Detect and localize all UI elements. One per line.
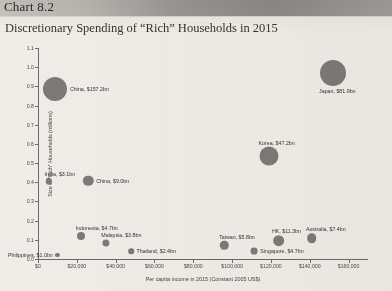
bubble-label-malaysia: Malaysia, $3.8bn (101, 232, 141, 238)
bubble-label-korea: Korea, $47.2bn (259, 140, 295, 146)
x-tick-label: $80,000 (184, 263, 203, 269)
header-divider (0, 16, 392, 17)
bubble-label-philippines: Philippines, $1.0bn (8, 252, 53, 258)
x-tick-label: $60,000 (145, 263, 164, 269)
y-tick-label: 0.3 (27, 198, 34, 204)
y-tick (35, 67, 39, 68)
y-tick (35, 240, 39, 241)
plot-area: Size of “Rich” Households (millions) Per… (38, 48, 368, 259)
bubble-japan[interactable] (320, 60, 346, 86)
bubble-label-taiwan: Taiwan, $5.8bn (219, 234, 255, 240)
x-tick-label: $20,000 (67, 263, 86, 269)
y-axis-line (38, 48, 39, 259)
bubble-label-singapore: Singapore, $4.7bn (260, 248, 303, 254)
x-tick-label: $100,000 (221, 263, 243, 269)
bubble-china[interactable] (43, 77, 67, 101)
x-axis-title: Per capita income in 2015 (Constant 2005… (146, 276, 260, 282)
y-tick (35, 163, 39, 164)
bubble-korea[interactable] (260, 147, 279, 166)
y-tick-label: 0.2 (27, 218, 34, 224)
bubble-label-thailand: Thailand, $2.4bn (136, 248, 175, 254)
y-tick (35, 144, 39, 145)
bubble-label-india: India, $3.1bn (44, 171, 75, 177)
y-tick-label: 0.9 (27, 83, 34, 89)
chart-header-band (0, 0, 392, 16)
y-tick (35, 201, 39, 202)
y-tick (35, 48, 39, 49)
bubble-label-japan: Japan, $81.9bn (319, 88, 356, 94)
y-tick (35, 106, 39, 107)
y-tick-label: 1.0 (27, 64, 34, 70)
x-tick-label: $140,000 (299, 263, 321, 269)
bubble-label-indonesia: Indonesia, $4.7bn (76, 225, 118, 231)
bubble-australia[interactable] (307, 233, 317, 243)
y-tick-label: 0.1 (27, 237, 34, 243)
bubble-thailand[interactable] (128, 249, 134, 255)
y-tick (35, 125, 39, 126)
x-tick-label: $40,000 (106, 263, 125, 269)
x-axis-line (38, 259, 368, 260)
bubble-malaysia[interactable] (102, 239, 109, 246)
bubble-label-hk: HK, $11.3bn (272, 228, 301, 234)
bubble-label-china: China, $157.2bn (70, 86, 109, 92)
chart-number: Chart 8.2 (4, 0, 54, 15)
bubble-taiwan[interactable] (220, 241, 228, 249)
x-tick-label: $160,000 (338, 263, 360, 269)
y-tick-label: 0.7 (27, 122, 34, 128)
chart-title: Discretionary Spending of “Rich” Househo… (5, 21, 278, 36)
bubble-philippines[interactable] (55, 253, 59, 257)
y-tick-label: 1.1 (27, 45, 34, 51)
y-tick (35, 221, 39, 222)
bubble-label-australia: Australia, $7.4bn (306, 226, 346, 232)
x-tick-label: $120,000 (260, 263, 282, 269)
bubble-china2[interactable] (83, 176, 93, 186)
y-tick-label: 0.5 (27, 160, 34, 166)
bubble-singapore[interactable] (251, 248, 258, 255)
bubble-indonesia[interactable] (77, 232, 85, 240)
y-tick-label: 0.4 (27, 179, 34, 185)
y-tick-label: 0.6 (27, 141, 34, 147)
y-tick (35, 86, 39, 87)
y-tick (35, 182, 39, 183)
bubble-label-china2: China, $9.0bn (96, 178, 129, 184)
y-tick-label: 0.8 (27, 103, 34, 109)
bubble-hk[interactable] (273, 235, 285, 247)
x-tick-label: $0 (35, 263, 41, 269)
chart-page: Chart 8.2 Discretionary Spending of “Ric… (0, 0, 392, 291)
